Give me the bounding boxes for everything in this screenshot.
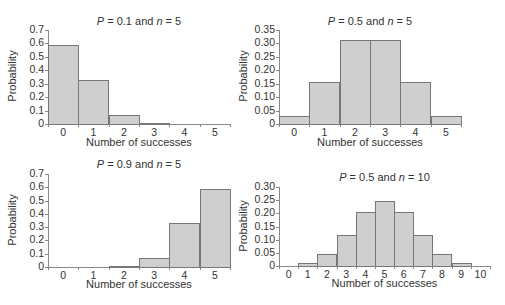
y-tick-mark: [45, 187, 48, 188]
x-tick-mark: [48, 267, 49, 270]
y-axis: [279, 30, 280, 124]
x-tick-mark: [109, 267, 110, 270]
bar-3: [370, 40, 401, 125]
bar-3: [139, 123, 170, 125]
y-tick-label: 0: [10, 117, 44, 129]
chart-title: P = 0.5 and n = 10: [279, 171, 490, 183]
bar-6: [394, 212, 414, 267]
x-tick-mark: [400, 124, 401, 127]
x-tick-mark: [461, 124, 462, 127]
bar-4: [356, 212, 376, 267]
bar-9: [452, 263, 472, 267]
y-axis-label: Probability: [237, 186, 249, 266]
y-tick-mark: [45, 240, 48, 241]
y-tick-mark: [45, 214, 48, 215]
y-tick-mark: [276, 240, 279, 241]
x-tick-mark: [490, 266, 491, 269]
y-tick-mark: [45, 227, 48, 228]
x-tick-mark: [139, 267, 140, 270]
bar-7: [413, 235, 433, 267]
y-axis: [279, 187, 280, 266]
bar-1: [298, 263, 318, 267]
x-axis-label: Number of successes: [48, 278, 230, 290]
n-value: = 5: [163, 158, 182, 170]
y-tick-mark: [45, 174, 48, 175]
x-tick-mark: [370, 124, 371, 127]
y-tick-mark: [276, 30, 279, 31]
x-tick-mark: [109, 124, 110, 127]
x-axis-label: Number of successes: [279, 136, 461, 148]
x-tick-mark: [139, 124, 140, 127]
y-tick-label: 0.7: [10, 167, 44, 179]
bar-1: [309, 82, 340, 125]
x-tick-mark: [169, 124, 170, 127]
x-tick-mark: [230, 267, 231, 270]
x-tick-mark: [431, 124, 432, 127]
n-value: = 5: [394, 15, 413, 27]
x-tick-mark: [48, 124, 49, 127]
y-tick-mark: [276, 57, 279, 58]
bar-0: [48, 45, 79, 125]
bar-1: [78, 80, 109, 125]
x-tick-mark: [78, 267, 79, 270]
x-tick-mark: [200, 124, 201, 127]
bar-4: [400, 82, 431, 125]
p-symbol: P: [339, 171, 346, 183]
x-tick-mark: [340, 124, 341, 127]
y-axis-label: Probability: [237, 36, 249, 116]
y-tick-mark: [276, 200, 279, 201]
bar-3: [139, 258, 170, 268]
y-tick-mark: [276, 227, 279, 228]
x-axis-label: Number of successes: [279, 277, 490, 289]
p-value: = 0.5 and: [347, 171, 399, 183]
x-tick-mark: [78, 124, 79, 127]
bar-2: [109, 266, 140, 268]
bar-2: [340, 40, 371, 125]
bar-5: [375, 201, 395, 267]
bar-2: [317, 254, 337, 267]
y-tick-mark: [276, 253, 279, 254]
y-axis: [48, 174, 49, 267]
x-tick-mark: [309, 124, 310, 127]
y-tick-mark: [276, 84, 279, 85]
bar-2: [109, 115, 140, 125]
chart-title: P = 0.1 and n = 5: [48, 15, 230, 27]
x-tick-mark: [279, 124, 280, 127]
chart-title: P = 0.5 and n = 5: [279, 15, 461, 27]
n-value: = 10: [405, 171, 430, 183]
p-value: = 0.1 and: [104, 15, 156, 27]
y-axis-label: Probability: [6, 180, 18, 260]
chart-title: P = 0.9 and n = 5: [48, 158, 230, 170]
x-tick-mark: [200, 267, 201, 270]
bar-8: [432, 254, 452, 267]
bar-3: [337, 235, 357, 267]
x-tick-mark: [169, 267, 170, 270]
y-tick-mark: [45, 43, 48, 44]
y-tick-mark: [276, 111, 279, 112]
y-tick-mark: [276, 43, 279, 44]
p-value: = 0.9 and: [104, 158, 156, 170]
y-tick-label: 0: [10, 260, 44, 272]
y-tick-mark: [276, 187, 279, 188]
y-tick-mark: [45, 254, 48, 255]
bar-4: [169, 223, 200, 268]
y-tick-mark: [276, 70, 279, 71]
bar-5: [200, 189, 231, 268]
x-axis-label: Number of successes: [48, 136, 230, 148]
y-tick-mark: [276, 97, 279, 98]
y-tick-mark: [45, 30, 48, 31]
y-tick-mark: [276, 213, 279, 214]
y-tick-label: 0: [241, 117, 275, 129]
y-axis-label: Probability: [6, 36, 18, 116]
bar-5: [431, 116, 462, 125]
bar-0: [279, 116, 310, 125]
y-tick-label: 0.7: [10, 23, 44, 35]
y-tick-mark: [45, 201, 48, 202]
x-tick-mark: [230, 124, 231, 127]
y-tick-label: 0.35: [241, 23, 275, 35]
p-value: = 0.5 and: [335, 15, 387, 27]
n-value: = 5: [163, 15, 182, 27]
